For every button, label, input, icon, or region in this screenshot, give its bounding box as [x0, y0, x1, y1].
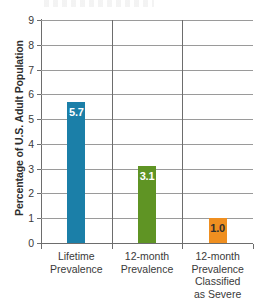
- cropped-title-remnant: [44, 0, 154, 7]
- x-tick-1: [112, 244, 113, 249]
- category-label-0: LifetimePrevalence: [41, 250, 112, 275]
- bar-0[interactable]: 5.7: [67, 102, 85, 243]
- category-label-2-line-0: 12-month: [182, 250, 253, 263]
- plot-area: 5.73.11.0: [41, 20, 253, 243]
- bar-value-label-1: 3.1: [138, 170, 156, 182]
- bar-value-label-2: 1.0: [209, 222, 227, 234]
- category-label-2-line-3: as Severe: [182, 288, 253, 301]
- category-label-1: 12-monthPrevalence: [112, 250, 183, 275]
- category-label-2-line-1: Prevalence: [182, 263, 253, 276]
- bar-value-label-0: 5.7: [67, 106, 85, 118]
- y-tick-label-4: 4: [20, 138, 34, 150]
- category-label-0-line-1: Prevalence: [41, 263, 112, 276]
- y-tick-label-7: 7: [20, 64, 34, 76]
- category-label-1-line-1: Prevalence: [112, 263, 183, 276]
- y-tick-label-8: 8: [20, 39, 34, 51]
- y-tick-label-9: 9: [20, 14, 34, 26]
- bar-series: 5.73.11.0: [41, 20, 253, 243]
- y-tick-label-5: 5: [20, 113, 34, 125]
- category-label-0-line-0: Lifetime: [41, 250, 112, 263]
- gridline-0: [41, 243, 253, 244]
- x-tick-2: [182, 244, 183, 249]
- y-tick-label-3: 3: [20, 163, 34, 175]
- bar-1[interactable]: 3.1: [138, 166, 156, 243]
- y-tick-label-6: 6: [20, 88, 34, 100]
- y-axis-title: Percentage of U.S. Adult Population: [13, 20, 25, 236]
- y-tick-label-0: 0: [20, 237, 34, 249]
- category-label-2-line-2: Classified: [182, 275, 253, 288]
- y-tick-label-2: 2: [20, 187, 34, 199]
- bar-chart-figure: Percentage of U.S. Adult Population 0123…: [0, 0, 264, 304]
- bar-2[interactable]: 1.0: [209, 218, 227, 243]
- x-tick-0: [41, 244, 42, 249]
- x-tick-3: [253, 244, 254, 249]
- y-tick-label-1: 1: [20, 212, 34, 224]
- category-label-1-line-0: 12-month: [112, 250, 183, 263]
- category-label-2: 12-monthPrevalenceClassifiedas Severe: [182, 250, 253, 300]
